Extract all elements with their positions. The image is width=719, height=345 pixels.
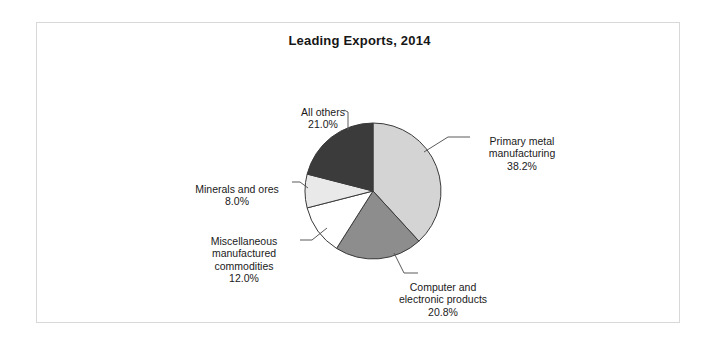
slice-label-minerals-percent: 8.0%: [176, 195, 298, 208]
slice-label-all-others: All others 21.0%: [274, 93, 372, 143]
slice-label-primary-metal-manufacturing: Primary metal manufacturing 38.2%: [462, 122, 582, 185]
slice-label-misc-percent: 12.0%: [186, 272, 302, 285]
pie-chart: [0, 0, 719, 345]
slice-label-computer-electronic-products: Computer and electronic products 20.8%: [378, 268, 508, 331]
chart-figure: Leading Exports, 2014 Primary metal manu…: [0, 0, 719, 345]
pie-svg: [0, 0, 719, 345]
pie-slices: [305, 123, 441, 259]
slice-label-primary-percent: 38.2%: [462, 160, 582, 173]
slice-label-computer-percent: 20.8%: [378, 306, 508, 319]
slice-label-minerals-and-ores: Minerals and ores 8.0%: [176, 170, 298, 220]
slice-label-allothers-name: All others: [301, 106, 345, 118]
slice-label-misc-name: Miscellaneous manufactured commodities: [211, 235, 278, 272]
slice-label-allothers-percent: 21.0%: [274, 118, 372, 131]
slice-label-primary-name: Primary metal manufacturing: [489, 135, 556, 160]
slice-label-minerals-name: Minerals and ores: [195, 183, 278, 195]
slice-label-miscellaneous-manufactured-commodities: Miscellaneous manufactured commodities 1…: [186, 222, 302, 298]
slice-label-computer-name: Computer and electronic products: [399, 281, 487, 306]
